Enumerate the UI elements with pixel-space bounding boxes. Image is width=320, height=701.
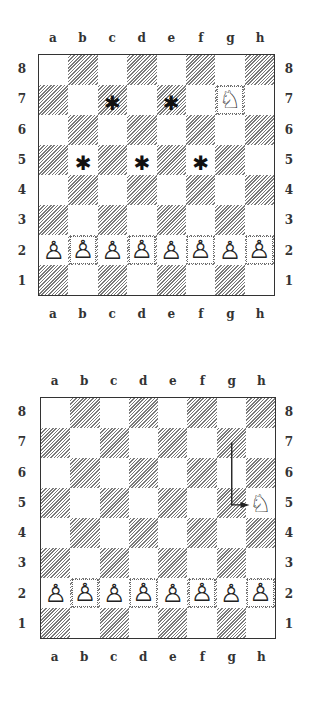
square-f1[interactable] <box>186 265 215 295</box>
square-h1[interactable] <box>245 265 274 295</box>
square-e8[interactable] <box>158 398 187 428</box>
square-c1[interactable] <box>98 265 127 295</box>
square-b2[interactable]: ♙ <box>68 235 97 265</box>
square-e8[interactable] <box>157 55 186 85</box>
white-pawn-icon[interactable]: ♙ <box>130 579 156 607</box>
square-a8[interactable] <box>39 55 68 85</box>
square-d4[interactable] <box>129 518 158 548</box>
square-f2[interactable]: ♙ <box>186 235 215 265</box>
square-f4[interactable] <box>187 518 216 548</box>
square-a6[interactable] <box>41 458 70 488</box>
square-h3[interactable] <box>245 205 274 235</box>
square-f3[interactable] <box>186 205 215 235</box>
square-d6[interactable] <box>129 458 158 488</box>
square-g6[interactable] <box>217 458 246 488</box>
square-a7[interactable] <box>41 428 70 458</box>
square-e1[interactable] <box>157 265 186 295</box>
square-f4[interactable] <box>186 175 215 205</box>
square-e6[interactable] <box>158 458 187 488</box>
white-knight-icon[interactable]: ♘ <box>217 86 243 114</box>
square-f1[interactable] <box>187 608 216 638</box>
square-c4[interactable] <box>100 518 129 548</box>
square-a2[interactable]: ♙ <box>41 578 70 608</box>
square-h6[interactable] <box>246 458 275 488</box>
white-pawn-icon[interactable]: ♙ <box>160 238 182 263</box>
square-a1[interactable] <box>39 265 68 295</box>
square-a8[interactable] <box>41 398 70 428</box>
square-f5[interactable]: ✱ <box>186 145 215 175</box>
square-d7[interactable] <box>127 85 156 115</box>
square-g1[interactable] <box>217 608 246 638</box>
white-pawn-icon[interactable]: ♙ <box>219 238 241 263</box>
square-b5[interactable] <box>70 488 99 518</box>
square-c7[interactable]: ✱ <box>98 85 127 115</box>
square-a4[interactable] <box>41 518 70 548</box>
square-g2[interactable]: ♙ <box>215 235 244 265</box>
square-c4[interactable] <box>98 175 127 205</box>
square-b7[interactable] <box>68 85 97 115</box>
white-pawn-icon[interactable]: ♙ <box>187 236 213 264</box>
white-pawn-icon[interactable]: ♙ <box>44 581 66 606</box>
square-a3[interactable] <box>41 548 70 578</box>
square-d1[interactable] <box>129 608 158 638</box>
square-c7[interactable] <box>100 428 129 458</box>
square-b1[interactable] <box>68 265 97 295</box>
square-b3[interactable] <box>70 548 99 578</box>
square-d8[interactable] <box>129 398 158 428</box>
square-b4[interactable] <box>70 518 99 548</box>
square-g8[interactable] <box>215 55 244 85</box>
square-h3[interactable] <box>246 548 275 578</box>
square-a2[interactable]: ♙ <box>39 235 68 265</box>
square-a5[interactable] <box>39 145 68 175</box>
square-e5[interactable] <box>158 488 187 518</box>
square-g4[interactable] <box>215 175 244 205</box>
square-a3[interactable] <box>39 205 68 235</box>
square-h1[interactable] <box>246 608 275 638</box>
square-d3[interactable] <box>127 205 156 235</box>
square-h2[interactable]: ♙ <box>246 578 275 608</box>
square-d5[interactable] <box>129 488 158 518</box>
square-f8[interactable] <box>187 398 216 428</box>
square-b3[interactable] <box>68 205 97 235</box>
square-h5[interactable]: ♘ <box>246 488 275 518</box>
square-h4[interactable] <box>246 518 275 548</box>
white-pawn-icon[interactable]: ♙ <box>247 579 273 607</box>
square-e5[interactable] <box>157 145 186 175</box>
white-pawn-icon[interactable]: ♙ <box>189 579 215 607</box>
square-c5[interactable] <box>98 145 127 175</box>
square-d5[interactable]: ✱ <box>127 145 156 175</box>
square-c2[interactable]: ♙ <box>98 235 127 265</box>
square-e3[interactable] <box>157 205 186 235</box>
square-a1[interactable] <box>41 608 70 638</box>
square-a7[interactable] <box>39 85 68 115</box>
square-c6[interactable] <box>98 115 127 145</box>
square-a5[interactable] <box>41 488 70 518</box>
square-f3[interactable] <box>187 548 216 578</box>
square-d1[interactable] <box>127 265 156 295</box>
square-g7[interactable] <box>217 428 246 458</box>
square-b5[interactable]: ✱ <box>68 145 97 175</box>
square-e2[interactable]: ♙ <box>158 578 187 608</box>
square-h7[interactable] <box>245 85 274 115</box>
square-b2[interactable]: ♙ <box>70 578 99 608</box>
square-g8[interactable] <box>217 398 246 428</box>
white-pawn-icon[interactable]: ♙ <box>42 238 64 263</box>
square-e6[interactable] <box>157 115 186 145</box>
square-c5[interactable] <box>100 488 129 518</box>
square-f6[interactable] <box>187 458 216 488</box>
square-f6[interactable] <box>186 115 215 145</box>
white-pawn-icon[interactable]: ♙ <box>101 238 123 263</box>
square-c3[interactable] <box>98 205 127 235</box>
square-f8[interactable] <box>186 55 215 85</box>
square-h6[interactable] <box>245 115 274 145</box>
white-pawn-icon[interactable]: ♙ <box>161 581 183 606</box>
square-e2[interactable]: ♙ <box>157 235 186 265</box>
square-h5[interactable] <box>245 145 274 175</box>
square-g6[interactable] <box>215 115 244 145</box>
square-h2[interactable]: ♙ <box>245 235 274 265</box>
square-a6[interactable] <box>39 115 68 145</box>
white-pawn-icon[interactable]: ♙ <box>246 236 272 264</box>
square-d2[interactable]: ♙ <box>129 578 158 608</box>
white-pawn-icon[interactable]: ♙ <box>70 236 96 264</box>
square-b8[interactable] <box>68 55 97 85</box>
